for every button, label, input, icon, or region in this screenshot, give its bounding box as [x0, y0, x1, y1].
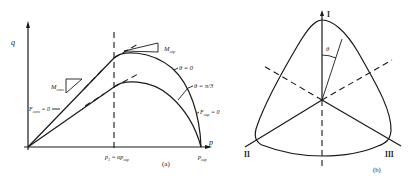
outer-tangent-dash: [84, 68, 104, 89]
theta-pi3-label: θ = π/3: [194, 82, 214, 89]
theta-ray: [322, 39, 342, 100]
inner-cap-tangent-dash: [114, 74, 138, 87]
yield-surface-figure: q p pcap p1 = αpcap (a) θ = 0 θ = π/3 Mc…: [0, 0, 414, 185]
p1-label: p1 = αpcap: [104, 154, 129, 162]
panel-a: q p pcap p1 = αpcap (a) θ = 0 θ = π/3 Mc…: [11, 21, 220, 168]
m-cap-slope-triangle-icon: [124, 43, 158, 52]
axis-i-arrow-icon: [320, 10, 324, 16]
panel-b-caption: (b): [373, 166, 381, 174]
theta-0-label: θ = 0: [179, 64, 194, 71]
axis-iii-label: III: [385, 150, 394, 159]
m-cons-label: Mcons: [50, 83, 64, 92]
p-axis-label: p: [208, 138, 213, 147]
m-cons-slope-triangle-icon: [66, 79, 82, 93]
axis-i-label: I: [327, 10, 330, 19]
f-cap-label: Fcap = 0: [199, 109, 220, 117]
m-cap-label: Mcap: [163, 45, 175, 54]
theta-pi3-leader: [178, 86, 193, 100]
q-axis-label: q: [11, 38, 15, 47]
panel-b: I II III θ (b): [244, 10, 401, 174]
p-cap-label: pcap: [197, 154, 207, 162]
theta0-leader: [174, 68, 178, 70]
theta-angle-label: θ: [326, 45, 330, 52]
panel-a-caption: (a): [162, 160, 170, 168]
axis-iii: [322, 100, 401, 146]
bisector-right-dashed: [322, 60, 392, 100]
f-cons-label: Fcons = 0: [28, 106, 50, 114]
q-axis-arrow-icon: [26, 21, 30, 28]
axis-ii-label: II: [244, 150, 250, 159]
deviatoric-yield-surface: [255, 20, 391, 156]
theta-arc: [322, 55, 336, 58]
